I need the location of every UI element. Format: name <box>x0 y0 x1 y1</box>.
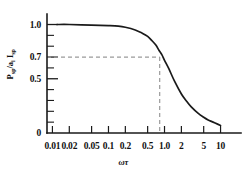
x-axis-title: ωτ <box>0 157 247 167</box>
x-axis-tick-label: 0.02 <box>61 141 77 151</box>
x-axis-tick-label: 0.2 <box>120 141 131 151</box>
x-axis-ticks <box>52 126 220 133</box>
x-axis-tick-label: 10 <box>216 141 225 151</box>
y-axis-title: Psp/ai Isp <box>6 33 15 95</box>
chart-figure: 1.00.70.50 0.010.020.050.10.20.51.02510 … <box>0 0 247 180</box>
x-axis-tick-label: 0.1 <box>103 141 114 151</box>
x-axis-tick-label: 1.0 <box>159 141 170 151</box>
annotation-guides <box>47 57 160 133</box>
data-series-curve <box>57 24 221 125</box>
x-axis-tick-label: 0.01 <box>45 141 61 151</box>
y-axis-tick-label: 1.0 <box>0 20 41 30</box>
x-axis-tick-label: 0.5 <box>142 141 153 151</box>
x-axis-tick-label: 2 <box>179 141 184 151</box>
y-axis-tick-label: 0 <box>0 128 41 138</box>
y-axis-ticks <box>47 25 58 123</box>
x-axis-tick-label: 5 <box>201 141 206 151</box>
x-axis-tick-label: 0.05 <box>84 141 100 151</box>
